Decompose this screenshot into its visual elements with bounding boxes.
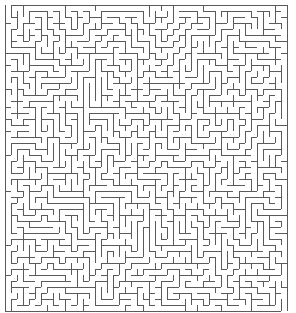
maze-svg — [0, 0, 296, 313]
maze-figure — [0, 0, 296, 313]
maze-canvas — [0, 0, 296, 313]
